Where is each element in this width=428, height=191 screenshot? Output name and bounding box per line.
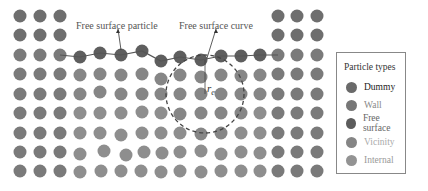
- legend-item-internal: Internal: [346, 153, 394, 167]
- legend-item-dummy: Dummy: [346, 80, 395, 94]
- legend-item-free-surface: Free surface: [346, 116, 405, 130]
- internal-dot-icon: [346, 155, 357, 166]
- legend-title: Particle types: [344, 62, 395, 72]
- free-surface-curve-arrow: [207, 29, 216, 58]
- wall-dot-icon: [346, 100, 357, 111]
- free-surface-curve: [60, 51, 278, 61]
- free-surface-curve-label: Free surface curve: [179, 20, 253, 31]
- legend: Particle types Dummy Wall Free surface V…: [336, 52, 406, 174]
- free-surface-dot-icon: [346, 118, 356, 129]
- vicinity-dot-icon: [346, 137, 357, 148]
- legend-item-vicinity: Vicinity: [346, 135, 395, 149]
- radius-label: re: [207, 82, 215, 97]
- legend-item-wall: Wall: [346, 98, 382, 112]
- free-surface-particle-label: Free surface particle: [76, 20, 158, 31]
- dummy-dot-icon: [346, 82, 357, 93]
